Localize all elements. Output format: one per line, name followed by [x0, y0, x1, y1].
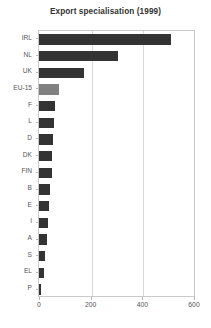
x-axis-label-200: 200 — [85, 302, 96, 309]
y-axis-label-d: D — [27, 135, 32, 142]
bar-row — [39, 268, 194, 278]
y-axis-label-e: E — [28, 202, 32, 209]
y-axis-label-s: S — [28, 252, 32, 259]
x-axis-label-600: 600 — [188, 302, 199, 309]
y-axis-label-fin: FIN — [21, 168, 32, 175]
bar-row — [39, 68, 194, 78]
y-axis-tick — [36, 138, 38, 139]
bar-p — [39, 284, 41, 294]
x-axis-labels: 0200400600 — [0, 297, 211, 317]
y-axis-label-el: EL — [24, 268, 32, 275]
bar-row — [39, 34, 194, 44]
bar-row — [39, 284, 194, 294]
y-axis-labels: IRLNLUKEU-15FLDDKFINBEIASELP — [0, 30, 36, 297]
bar-row — [39, 84, 194, 94]
bar-i — [39, 218, 48, 228]
y-axis-tick — [36, 122, 38, 123]
bar-irl — [39, 34, 171, 44]
y-axis-label-nl: NL — [24, 52, 32, 59]
bar-dk — [39, 151, 52, 161]
y-axis-tick — [36, 189, 38, 190]
bar-row — [39, 51, 194, 61]
bar-row — [39, 184, 194, 194]
bar-row — [39, 234, 194, 244]
chart-title: Export specialisation (1999) — [0, 7, 211, 16]
y-axis-tick — [36, 272, 38, 273]
bar-e — [39, 201, 49, 211]
bar-row — [39, 118, 194, 128]
bar-row — [39, 251, 194, 261]
bar-d — [39, 134, 53, 144]
y-axis-tick — [36, 105, 38, 106]
x-axis-tick-400 — [142, 297, 143, 300]
plot-area — [38, 30, 195, 297]
bars-layer — [39, 31, 194, 296]
bar-fin — [39, 168, 52, 178]
y-axis-label-f: F — [28, 102, 32, 109]
y-axis-label-i: I — [30, 218, 32, 225]
bar-uk — [39, 68, 84, 78]
bar-el — [39, 268, 44, 278]
x-axis-tick-0 — [39, 297, 40, 300]
bar-row — [39, 151, 194, 161]
y-axis-tick — [36, 55, 38, 56]
y-axis-tick — [36, 72, 38, 73]
bar-l — [39, 118, 54, 128]
y-axis-label-dk: DK — [23, 152, 32, 159]
y-axis-label-l: L — [28, 118, 32, 125]
y-axis-tick — [36, 239, 38, 240]
bar-eu-15 — [39, 84, 59, 94]
y-axis-label-eu-15: EU-15 — [13, 85, 32, 92]
bar-f — [39, 101, 55, 111]
x-axis-tick-600 — [194, 297, 195, 300]
y-axis-label-b: B — [28, 185, 32, 192]
bar-row — [39, 168, 194, 178]
y-axis-label-p: P — [28, 285, 32, 292]
x-axis-label-400: 400 — [137, 302, 148, 309]
y-axis-label-irl: IRL — [22, 35, 32, 42]
y-axis-tick — [36, 289, 38, 290]
bar-row — [39, 218, 194, 228]
y-axis-tick — [36, 222, 38, 223]
y-axis-tick — [36, 172, 38, 173]
x-axis-label-0: 0 — [37, 302, 41, 309]
bar-b — [39, 184, 50, 194]
y-axis-label-uk: UK — [23, 68, 32, 75]
bar-row — [39, 101, 194, 111]
export-specialisation-chart: Export specialisation (1999) IRLNLUKEU-1… — [0, 0, 211, 328]
bar-s — [39, 251, 45, 261]
bar-row — [39, 134, 194, 144]
y-axis-tick — [36, 155, 38, 156]
y-axis-label-a: A — [28, 235, 32, 242]
y-axis-tick — [36, 255, 38, 256]
x-axis-tick-200 — [91, 297, 92, 300]
y-axis-tick — [36, 38, 38, 39]
y-axis-tick — [36, 205, 38, 206]
bar-nl — [39, 51, 118, 61]
bar-row — [39, 201, 194, 211]
bar-a — [39, 234, 47, 244]
y-axis-tick — [36, 88, 38, 89]
